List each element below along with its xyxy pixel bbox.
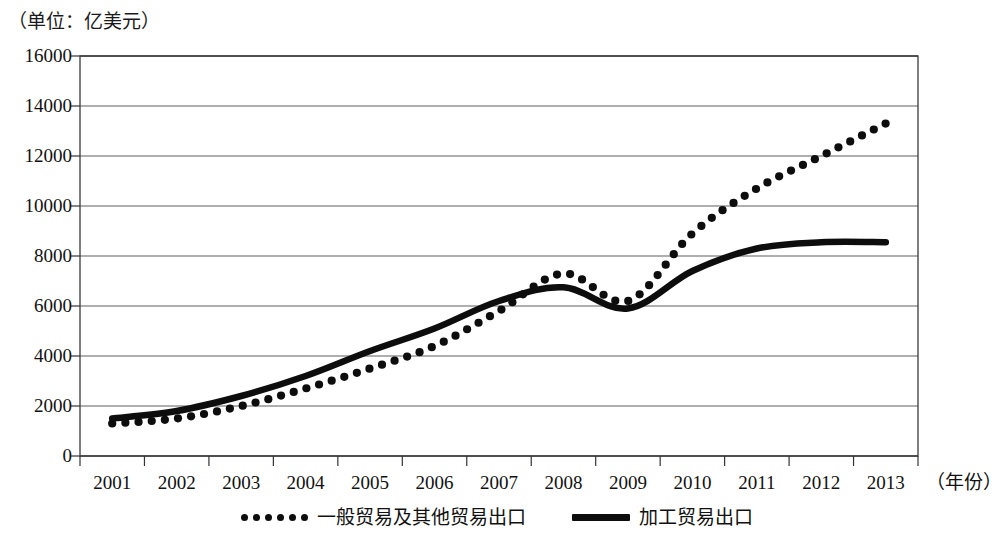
series-line-general-trade (108, 120, 890, 428)
x-tick-label: 2001 (80, 473, 144, 492)
x-tick-label: 2011 (725, 473, 789, 492)
x-tick-label: 2002 (145, 473, 209, 492)
x-tick-label: 2009 (596, 473, 660, 492)
legend-item-general-trade: 一般贸易及其他贸易出口 (241, 508, 526, 527)
dotted-line-marker-icon (241, 512, 308, 524)
x-tick-label: 2013 (854, 473, 918, 492)
chart-legend: 一般贸易及其他贸易出口 加工贸易出口 (0, 508, 994, 527)
x-tick-label: 2006 (403, 473, 467, 492)
x-axis-title: （年份） (926, 473, 994, 492)
gridlines (71, 56, 918, 456)
x-axis-ticks (80, 456, 918, 466)
plot-area (0, 0, 994, 539)
solid-line-marker-icon (572, 514, 630, 521)
legend-item-processing-trade: 加工贸易出口 (572, 508, 753, 527)
x-tick-label: 2005 (338, 473, 402, 492)
legend-label-processing-trade: 加工贸易出口 (639, 508, 753, 527)
x-tick-label: 2008 (531, 473, 595, 492)
x-tick-label: 2004 (274, 473, 338, 492)
legend-label-general-trade: 一般贸易及其他贸易出口 (317, 508, 526, 527)
x-tick-label: 2010 (660, 473, 724, 492)
trade-export-line-chart: （单位：亿美元） 1600014000120001000080006000400… (0, 0, 994, 539)
x-tick-label: 2003 (209, 473, 273, 492)
x-tick-label: 2012 (789, 473, 853, 492)
x-tick-label: 2007 (467, 473, 531, 492)
series-line-processing-trade (112, 242, 886, 419)
